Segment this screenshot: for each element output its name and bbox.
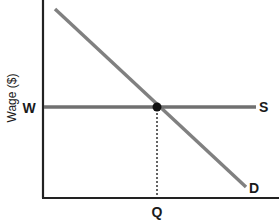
labor-market-chart: W Q S D Wage ($) [0,0,279,221]
demand-label: D [249,180,259,196]
demand-curve [55,9,246,187]
equilibrium-point [153,103,162,112]
quantity-tick-label: Q [152,204,163,220]
y-axis-label: Wage ($) [5,74,19,123]
wage-tick-label: W [22,100,36,116]
supply-label: S [259,99,268,115]
